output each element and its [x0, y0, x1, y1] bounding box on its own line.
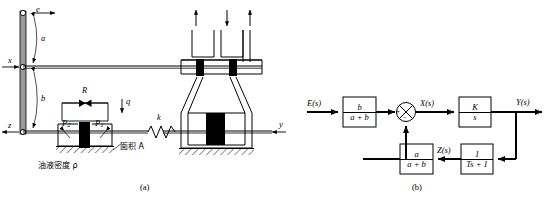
- spring-k: [148, 126, 175, 138]
- signal-label-feedback: Z(s): [437, 146, 451, 155]
- label-a-segment: a: [41, 34, 45, 43]
- lever-dimension-arcs: [33, 17, 37, 128]
- summing-minus-sign: −: [403, 115, 407, 122]
- label-e: e: [36, 5, 40, 14]
- figure-canvas: e x z a b R q k P2 P1 油液密度 ρ 面积 A y (a) …: [0, 0, 548, 201]
- lever-bar: [20, 10, 26, 134]
- caption-a: (a): [140, 182, 149, 192]
- block-label-integrator: K s: [459, 103, 491, 122]
- summing-plus-sign: +: [396, 109, 400, 116]
- label-oil-density: 油液密度 ρ: [38, 159, 78, 170]
- block-label-lag: 1 Ts + 1: [461, 150, 493, 169]
- label-y-output: y: [279, 120, 283, 129]
- figure-vector: [0, 0, 548, 201]
- label-q-flow: q: [126, 97, 130, 106]
- label-R-restriction: R: [82, 86, 87, 95]
- label-z: z: [8, 121, 11, 130]
- signal-label-output: Y(s): [516, 98, 530, 107]
- lower-connecting-rod: [23, 131, 272, 133]
- signal-label-input: E(s): [307, 99, 321, 108]
- block-label-input-gain: b a + b: [343, 103, 376, 122]
- upper-connecting-rod: [23, 66, 262, 68]
- label-b-segment: b: [41, 94, 45, 103]
- label-x: x: [8, 56, 12, 65]
- label-k-spring: k: [157, 113, 161, 122]
- label-P2: P2: [62, 119, 70, 129]
- label-P1: P1: [95, 119, 103, 129]
- panel-a-mechanism: [2, 10, 286, 155]
- block-label-feedback-gain: a a + b: [400, 150, 433, 169]
- signal-label-after-sum: X(s): [420, 99, 434, 108]
- label-piston-area: 面积 A: [120, 140, 144, 151]
- caption-b: (b): [412, 182, 422, 192]
- restriction-symbol: [79, 100, 92, 108]
